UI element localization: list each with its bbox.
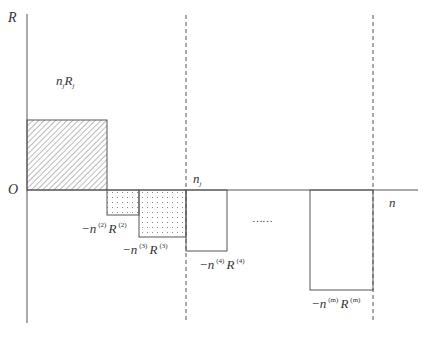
subscript-j: j <box>72 82 74 90</box>
sup: (m) <box>328 296 338 304</box>
hatched-bar-j <box>27 120 107 190</box>
bar-3-label: −n(3)R(3) <box>122 243 170 256</box>
neg-n: −n <box>199 257 214 272</box>
sup: (2) <box>98 221 106 229</box>
R-symbol: R <box>340 296 348 311</box>
subscript-j: j <box>200 180 202 188</box>
ellipsis: …… <box>252 213 272 224</box>
R-symbol: R <box>149 242 157 257</box>
dotted-bar-3 <box>139 190 186 237</box>
region-label-njRj: njRj <box>56 74 74 90</box>
sup: (3) <box>139 242 147 250</box>
bar-m <box>310 190 373 290</box>
R-symbol: R <box>226 257 234 272</box>
sup: (4) <box>216 257 224 265</box>
bar-m-label: −n(m)R(m) <box>311 297 362 310</box>
nj-marker-label: nj <box>193 172 201 188</box>
diagram-canvas <box>0 0 427 339</box>
sup: (4) <box>236 257 244 265</box>
origin-label: O <box>8 183 18 197</box>
x-axis-label: n <box>389 196 396 209</box>
sup: (3) <box>159 242 167 250</box>
dotted-bar-2 <box>107 190 139 215</box>
bar-4 <box>186 190 227 251</box>
bar-4-label: −n(4)R(4) <box>199 258 247 271</box>
sup: (m) <box>350 296 360 304</box>
neg-n: −n <box>81 221 96 236</box>
R-symbol: R <box>108 221 116 236</box>
y-axis-label: R <box>8 11 17 25</box>
neg-n: −n <box>311 296 326 311</box>
neg-n: −n <box>122 242 137 257</box>
sup: (2) <box>118 221 126 229</box>
bar-2-label: −n(2)R(2) <box>81 222 129 235</box>
